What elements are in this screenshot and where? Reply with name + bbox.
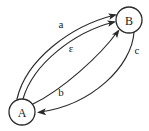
edge-c-arrowhead xyxy=(37,108,46,116)
edge-epsilon-path xyxy=(23,22,114,99)
edge-b-label: b xyxy=(58,86,64,98)
edge-a[interactable]: a xyxy=(17,11,118,99)
nodes-group: A B xyxy=(9,7,142,125)
state-transition-graph: a ε b c A xyxy=(0,0,149,131)
diagram-canvas: a ε b c A xyxy=(0,0,149,131)
edge-a-label: a xyxy=(59,18,64,30)
edge-b[interactable]: b xyxy=(33,28,122,104)
edge-c-label: c xyxy=(135,44,140,56)
node-b[interactable]: B xyxy=(116,7,142,33)
edge-epsilon-arrowhead xyxy=(107,18,117,26)
edge-c-path xyxy=(40,32,134,112)
node-b-label: B xyxy=(125,14,133,28)
edge-epsilon-label: ε xyxy=(69,42,74,54)
edge-epsilon[interactable]: ε xyxy=(23,18,117,99)
edge-b-path xyxy=(33,31,118,104)
edge-c[interactable]: c xyxy=(37,32,140,116)
node-a[interactable]: A xyxy=(9,99,35,125)
node-a-label: A xyxy=(18,106,27,120)
